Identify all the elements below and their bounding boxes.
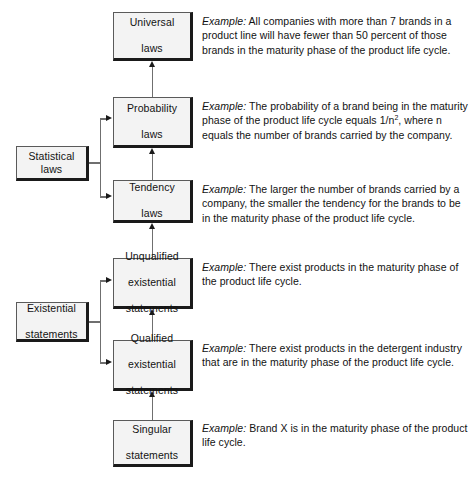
node-singular-label: Singularstatements	[120, 423, 184, 462]
arrowhead-universal	[149, 61, 155, 67]
example-lead: Example:	[202, 342, 246, 354]
group-existential-statements[interactable]: Existentialstatements	[16, 302, 89, 342]
group-statistical-laws-label: Statistical laws	[17, 150, 86, 176]
example-lead: Example:	[202, 100, 246, 112]
node-unqualified-existential-statements[interactable]: Unqualifiedexistentialstatements	[113, 258, 193, 309]
bracket-existential-spine	[100, 280, 102, 362]
example-lead: Example:	[202, 15, 246, 27]
node-tendency-laws[interactable]: Tendencylaws	[113, 180, 193, 223]
connector-tendency-to-probability	[152, 154, 154, 180]
node-universal-laws-label: Universallaws	[124, 16, 181, 55]
node-tendency-laws-label: Tendencylaws	[123, 181, 181, 220]
example-tendency-laws: Example: The larger the number of brands…	[202, 182, 468, 225]
example-lead: Example:	[202, 183, 246, 195]
connector-singular-to-qualified	[152, 397, 154, 420]
arrowhead-tendency	[149, 223, 155, 229]
example-lead: Example:	[202, 261, 246, 273]
arrowhead-existential-unqualified	[106, 277, 112, 283]
example-unqualified-existential: Example: There exist products in the mat…	[202, 260, 468, 289]
node-qualified-existential-statements[interactable]: Qualifiedexistentialstatements	[113, 340, 193, 391]
arrowhead-probability	[149, 148, 155, 154]
connector-probability-to-universal	[152, 67, 154, 97]
example-universal-laws: Example: All companies with more than 7 …	[202, 14, 468, 57]
node-qualified-label: Qualifiedexistentialstatements	[120, 332, 184, 397]
arrowhead-statistical-probability	[106, 115, 112, 121]
arrowhead-existential-qualified	[106, 359, 112, 365]
node-unqualified-label: Unqualifiedexistentialstatements	[119, 250, 185, 315]
node-probability-laws-label: Probabilitylaws	[121, 102, 183, 141]
node-singular-statements[interactable]: Singularstatements	[113, 420, 193, 467]
node-probability-laws[interactable]: Probabilitylaws	[113, 97, 193, 148]
example-probability-laws: Example: The probability of a brand bein…	[202, 99, 468, 142]
example-qualified-existential: Example: There exist products in the det…	[202, 341, 468, 370]
example-singular-statements: Example: Brand X is in the maturity phas…	[202, 421, 468, 450]
node-universal-laws[interactable]: Universallaws	[113, 12, 193, 61]
example-lead: Example:	[202, 422, 246, 434]
bracket-statistical-spine	[100, 118, 102, 197]
group-existential-statements-label: Existentialstatements	[19, 302, 83, 341]
arrowhead-statistical-tendency	[106, 193, 112, 199]
group-statistical-laws[interactable]: Statistical laws	[16, 146, 89, 181]
